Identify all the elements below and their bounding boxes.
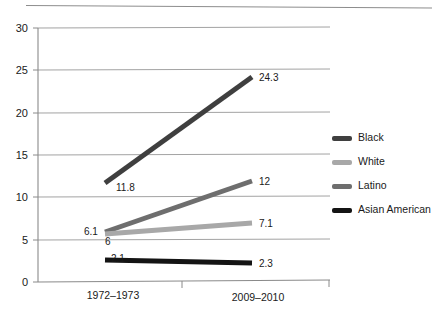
y-tick-label: 5	[22, 234, 28, 246]
y-tick-label: 15	[16, 149, 28, 161]
y-tick-label: 10	[16, 191, 28, 203]
legend-swatch-black	[332, 136, 352, 141]
data-label-white-end: 7.1	[259, 218, 273, 229]
legend-swatch-white	[332, 160, 352, 165]
y-tick-marks	[33, 28, 38, 282]
data-label-latino-start: 6.1	[84, 226, 98, 237]
x-axis-tick-labels: 1972–1973 2009–2010	[87, 289, 285, 303]
y-axis-tick-labels: 30 25 20 15 10 5 0	[16, 22, 28, 288]
legend-swatch-latino	[332, 184, 352, 189]
chart-container: 30 25 20 15 10 5 0 1972–1973 2009–2010	[0, 0, 438, 318]
y-tick-label: 30	[16, 22, 28, 34]
legend-item-black: Black	[332, 131, 384, 143]
line-chart: 30 25 20 15 10 5 0 1972–1973 2009–2010	[0, 0, 438, 318]
legend-label-white: White	[358, 155, 385, 167]
x-tick-label-period-1: 1972–1973	[87, 289, 140, 301]
series-line-black	[105, 77, 252, 183]
legend-item-latino: Latino	[332, 179, 387, 191]
data-label-asian-start: 2.1	[111, 253, 125, 264]
data-label-black-start: 11.8	[116, 182, 135, 193]
gridlines	[38, 27, 330, 240]
legend-item-asian-american: Asian American	[332, 203, 431, 215]
legend-swatch-asian-american	[332, 208, 352, 213]
legend-item-white: White	[332, 155, 385, 167]
data-label-white-start: 6	[105, 236, 111, 247]
y-tick-label: 0	[22, 276, 28, 288]
y-tick-label: 25	[16, 64, 28, 76]
legend-label-black: Black	[358, 131, 384, 143]
series-lines	[105, 77, 252, 263]
legend-label-asian-american: Asian American	[358, 203, 431, 215]
y-tick-label: 20	[16, 107, 28, 119]
legend-label-latino: Latino	[358, 179, 387, 191]
series-line-asian-american	[105, 260, 252, 263]
x-tick-label-period-2: 2009–2010	[232, 291, 285, 303]
chart-legend: Black White Latino Asian American	[332, 131, 431, 215]
data-label-latino-end: 12	[259, 176, 271, 187]
data-label-asian-end: 2.3	[259, 258, 273, 269]
data-label-black-end: 24.3	[259, 72, 279, 83]
